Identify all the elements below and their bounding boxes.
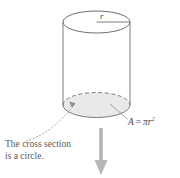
area-formula-exponent: 2 [151,115,154,122]
radius-label: r [100,12,104,21]
downward-arrow-shaft [99,128,103,162]
caption-line-2: is a circle. [5,151,44,161]
caption-line-1: The cross section [5,139,71,149]
cross-section-caption: The cross section is a circle. [5,139,97,162]
area-formula-label: A = πr2 [128,116,155,128]
cylinder-cross-section-figure: r A = πr2 The cross section is a circle. [0,0,180,178]
downward-arrow-head [95,160,108,175]
caption-leader-line [26,108,72,141]
